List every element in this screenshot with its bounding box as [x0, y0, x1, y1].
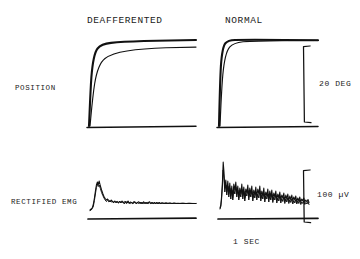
calibration-label-microvolts: 100 µV [317, 190, 349, 199]
row-heading-rectified-emg: RECTIFIED EMG [11, 198, 77, 206]
row-heading-position: POSITION [15, 84, 56, 92]
time-bar-emg-deafferented [88, 218, 196, 219]
calibration-bracket-microvolts [304, 170, 311, 223]
figure-canvas: DEAFFERENTED NORMAL POSITION RECTIFIED E… [0, 0, 360, 259]
panel-emg-deafferented [84, 160, 208, 220]
baseline-position-normal [217, 126, 318, 127]
column-heading-deafferented: DEAFFERENTED [87, 15, 163, 26]
trace-emg-deafferented-1 [90, 181, 196, 210]
calibration-label-time: 1 SEC [233, 237, 260, 246]
trace-position-deafferented-fast [89, 40, 196, 126]
trace-position-deafferented-slow [90, 47, 196, 126]
trace-emg-deafferented-2 [90, 184, 196, 211]
trace-emg-normal-2 [220, 170, 309, 209]
calibration-bracket-degrees [304, 46, 312, 123]
baseline-position-deafferented [87, 126, 196, 127]
panel-position-deafferented [84, 36, 208, 132]
column-heading-normal: NORMAL [225, 15, 263, 26]
calibration-label-degrees: 20 DEG [319, 79, 351, 88]
